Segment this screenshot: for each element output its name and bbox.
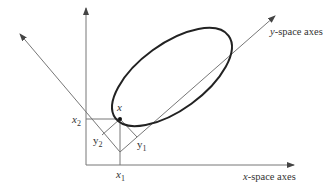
y-space-axes	[20, 16, 275, 152]
y1-projection	[120, 119, 137, 137]
y2-label: y2	[93, 134, 103, 149]
y1-label: y1	[137, 138, 147, 153]
constraint-ellipse	[96, 9, 248, 145]
diagram-canvas: x x2 x1 y2 y1 y-space axes x-space axes	[0, 0, 334, 187]
x2-label: x2	[71, 113, 81, 128]
x-space-axes-label: x-space axes	[242, 171, 296, 182]
y-space-axis-1	[120, 16, 275, 152]
x1-label: x1	[115, 168, 125, 183]
point-x	[118, 117, 122, 121]
y-space-axis-2	[20, 34, 120, 152]
y-space-axes-label: y-space axes	[269, 26, 323, 37]
point-x-label: x	[116, 101, 122, 113]
